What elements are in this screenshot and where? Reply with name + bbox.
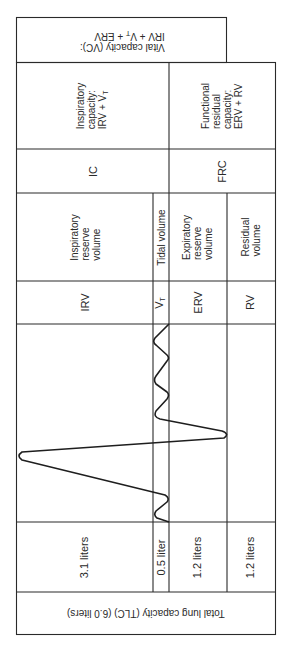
erv-name-line1: Expiratory xyxy=(181,214,192,259)
irv-name-line3: volume xyxy=(91,214,102,261)
frc-line3: capacity: xyxy=(222,83,233,129)
spirometer-trace xyxy=(19,324,227,522)
functional-residual-capacity-cell: Functional residual capacity: ERV + RV xyxy=(169,63,275,149)
total-lung-capacity-cell: Total lung capacity (TLC) (6.0 liters) xyxy=(17,592,275,634)
frc-line2: residual xyxy=(211,83,222,129)
rv-abbr: RV xyxy=(246,295,257,310)
irv-value: 3.1 liters xyxy=(79,536,90,578)
ic-line1: Inspiratory xyxy=(75,83,86,130)
ic-line2: capacity: xyxy=(86,83,97,130)
irv-name-line2: reserve xyxy=(80,214,91,261)
rv-abbr-cell: RV xyxy=(227,281,275,324)
vt-name-cell: Tidal volume xyxy=(153,193,169,281)
vt-abbr-cell: VT xyxy=(153,281,169,324)
irv-value-cell: 3.1 liters xyxy=(17,522,153,592)
tlc-label: Total lung capacity (TLC) (6.0 liters) xyxy=(67,608,225,619)
vc-formula: IRV + VT + ERV xyxy=(80,28,165,42)
frc-line4: ERV + RV xyxy=(233,83,244,129)
frc-abbr: FRC xyxy=(216,160,227,183)
rv-name-line2: volume xyxy=(251,218,262,257)
inspiratory-capacity-cell: Inspiratory capacity: IRV + VT xyxy=(17,63,169,149)
erv-abbr-cell: ERV xyxy=(169,281,227,324)
erv-value-cell: 1.2 liters xyxy=(169,522,227,592)
vc-label: Vital capacity (VC): xyxy=(80,42,165,53)
vt-value: 0.5 liter xyxy=(156,539,167,575)
erv-abbr: ERV xyxy=(192,291,203,313)
irv-abbr: IRV xyxy=(79,293,90,311)
rv-name-cell: Residual volume xyxy=(227,193,275,281)
vt-value-cell: 0.5 liter xyxy=(153,522,169,592)
ic-abbr-cell: IC xyxy=(17,149,169,193)
erv-name-line3: volume xyxy=(203,214,214,259)
erv-name-line2: reserve xyxy=(192,214,203,259)
irv-name-line1: Inspiratory xyxy=(69,214,80,261)
vital-capacity-cell: Vital capacity (VC): IRV + VT + ERV xyxy=(17,18,227,62)
frc-line1: Functional xyxy=(200,83,211,129)
ic-formula: IRV + VT xyxy=(97,83,111,130)
vt-abbr: VT xyxy=(154,297,168,309)
erv-name-cell: Expiratory reserve volume xyxy=(169,193,227,281)
rv-name-line1: Residual xyxy=(240,218,251,257)
irv-abbr-cell: IRV xyxy=(17,281,153,324)
rv-value: 1.2 liters xyxy=(245,536,256,578)
ic-abbr: IC xyxy=(88,166,99,177)
irv-name-cell: Inspiratory reserve volume xyxy=(17,193,153,281)
rv-value-cell: 1.2 liters xyxy=(227,522,275,592)
frc-abbr-cell: FRC xyxy=(169,149,275,193)
vt-name: Tidal volume xyxy=(156,209,167,265)
lung-volumes-diagram: Vital capacity (VC): IRV + VT + ERV Insp… xyxy=(0,0,293,647)
erv-value: 1.2 liters xyxy=(192,536,203,578)
